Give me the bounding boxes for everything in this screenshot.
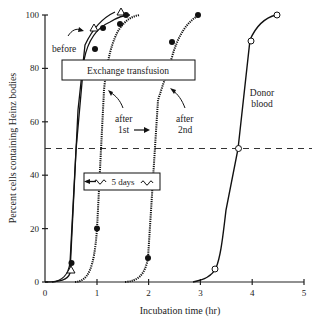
exchange-transfusion-box: Exchange transfusion: [62, 60, 195, 80]
y-axis-title: Percent cells containing Heinz bodies: [7, 73, 18, 224]
arrowhead-icon: [170, 88, 176, 94]
annotation-donor-a: Donor: [250, 88, 275, 98]
exchange-transfusion-label: Exchange transfusion: [87, 66, 169, 76]
filled-circle-marker: [69, 260, 75, 266]
x-axis-title: Incubation time (hr): [140, 305, 221, 317]
open-circle-marker: [248, 38, 254, 44]
x-tick: 0: [43, 288, 48, 298]
x-tick: 4: [250, 288, 255, 298]
y-tick: 40: [30, 170, 40, 180]
annotation-after-1st-b: 1st: [118, 125, 129, 135]
filled-circle-marker: [117, 21, 123, 27]
five-days-box: 5 days: [84, 173, 160, 190]
annotation-donor-b: blood: [251, 99, 273, 109]
annotation-after-2nd-a: after: [176, 114, 194, 124]
open-circle-marker: [236, 146, 242, 152]
filled-circle-marker: [100, 25, 106, 31]
filled-circle-marker: [123, 12, 129, 18]
x-tick-labels: 0 1 2 3 4 5: [43, 288, 307, 298]
open-circle-marker: [274, 12, 280, 18]
x-tick: 1: [95, 288, 100, 298]
filled-circle-marker: [94, 226, 100, 232]
annotation-after-1st-a: after: [115, 114, 133, 124]
y-tick: 60: [30, 117, 40, 127]
markers: [67, 8, 280, 273]
triangle-marker: [90, 24, 98, 31]
x-tick: 3: [198, 288, 203, 298]
annotation-after-2nd-b: 2nd: [178, 125, 193, 135]
filled-circle-marker: [169, 39, 175, 45]
y-tick: 0: [35, 277, 40, 287]
y-tick-labels: 0 20 40 60 80 100: [26, 10, 40, 287]
five-days-label: 5 days: [111, 177, 135, 187]
arrow-after-1st-icon: [110, 92, 123, 108]
heinz-body-chart: 0 20 40 60 80 100 0 1 2 3 4 5 Incubation…: [0, 0, 317, 321]
y-tick: 20: [30, 224, 40, 234]
annotation-before: before: [52, 44, 76, 54]
open-circle-marker: [212, 266, 218, 272]
y-tick: 80: [30, 63, 40, 73]
x-tick: 5: [302, 288, 307, 298]
filled-circle-marker: [145, 255, 151, 261]
arrowhead-icon: [78, 27, 84, 32]
filled-circle-marker: [92, 46, 98, 52]
filled-circle-marker: [195, 12, 201, 18]
arrowhead-icon: [108, 90, 113, 96]
arrowhead-icon: [144, 127, 150, 133]
x-tick: 2: [146, 288, 151, 298]
y-tick: 100: [26, 10, 40, 20]
axes: [42, 15, 304, 285]
